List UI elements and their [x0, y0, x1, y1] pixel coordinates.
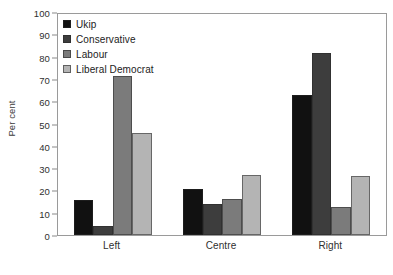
y-axis-tick-label: 80 [39, 52, 50, 63]
y-axis-tick-label: 30 [39, 164, 50, 175]
bar [132, 133, 152, 235]
legend-swatch-icon [63, 35, 71, 43]
y-axis-tick-label: 20 [39, 186, 50, 197]
y-axis-title: Per cent [2, 0, 20, 236]
bar [351, 176, 371, 235]
legend-label: Liberal Democrat [76, 64, 154, 75]
y-axis-title-text: Per cent [6, 100, 17, 136]
x-axis-labels: LeftCentreRight [57, 240, 387, 260]
bar [203, 204, 223, 235]
bar [74, 200, 94, 235]
legend-item: Conservative [63, 32, 154, 46]
x-axis-label: Right [318, 240, 342, 251]
legend-swatch-icon [63, 65, 71, 73]
bar-group [183, 14, 261, 235]
bar [222, 199, 242, 235]
legend-item: Ukip [63, 17, 154, 31]
bar [113, 76, 133, 235]
y-axis-tick-label: 40 [39, 141, 50, 152]
y-axis-tick-label: 100 [34, 8, 50, 19]
legend-swatch-icon [63, 20, 71, 28]
bar [312, 53, 332, 235]
bar [292, 95, 312, 235]
legend-item: Liberal Democrat [63, 62, 154, 76]
bar [183, 189, 203, 235]
bar [93, 226, 113, 235]
bar-group [292, 14, 370, 235]
x-axis-label: Left [103, 240, 120, 251]
y-axis-tick-label: 0 [45, 231, 50, 242]
y-axis-tick-label: 10 [39, 208, 50, 219]
legend: UkipConservativeLabourLiberal Democrat [63, 17, 154, 76]
legend-label: Labour [76, 49, 108, 60]
y-axis-tick-label: 60 [39, 97, 50, 108]
y-axis-tick-label: 70 [39, 74, 50, 85]
bar [331, 207, 351, 235]
y-axis-ticks: 0102030405060708090100 [20, 0, 57, 275]
x-axis-label: Centre [206, 240, 237, 251]
legend-swatch-icon [63, 50, 71, 58]
bar [242, 175, 262, 235]
y-axis-tick-label: 50 [39, 119, 50, 130]
y-axis-tick-label: 90 [39, 30, 50, 41]
legend-label: Conservative [76, 34, 136, 45]
legend-label: Ukip [76, 19, 96, 30]
bar-chart: Per cent 0102030405060708090100 LeftCent… [0, 0, 393, 275]
legend-item: Labour [63, 47, 154, 61]
